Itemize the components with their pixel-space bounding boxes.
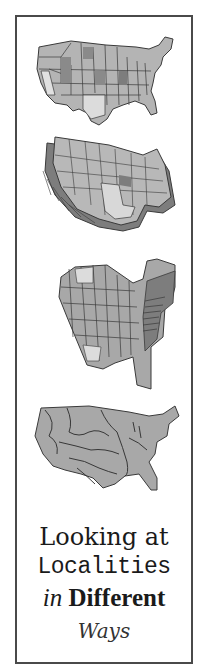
us-map-states-extruded: [39, 135, 189, 235]
title-line-in-different: in Different: [17, 582, 191, 614]
title-word-different: Different: [68, 584, 165, 611]
us-map-states-extruded-rotated: [47, 257, 187, 392]
us-map-states-flat: [31, 35, 181, 130]
title-word-in: in: [43, 584, 62, 611]
title-line-ways: Ways: [17, 614, 191, 648]
us-map-river-basins: [29, 402, 189, 502]
title-line-looking-at: Looking at: [17, 522, 191, 552]
title-line-localities: Localities: [17, 552, 191, 582]
poster-frame: Looking at Localities in Different Ways: [15, 15, 193, 664]
poster-title: Looking at Localities in Different Ways: [17, 522, 191, 648]
